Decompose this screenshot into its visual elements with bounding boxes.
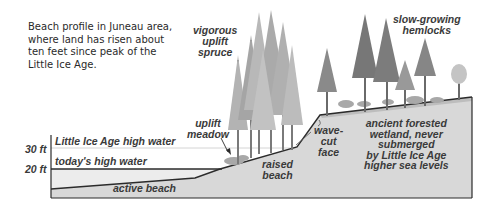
label-slow-growing-hemlocks: slow-growing hemlocks <box>393 14 461 36</box>
label-line: beach <box>262 170 293 181</box>
label-raised-beach: raised beach <box>262 159 293 181</box>
label-active-beach: active beach <box>113 183 176 194</box>
axis-tick-20ft: 20 ft <box>25 164 47 175</box>
label-line: ancient forested <box>364 118 449 129</box>
label-little-ice-age-high-water: Little Ice Age high water <box>55 136 175 147</box>
label-uplift-meadow: uplift meadow <box>187 118 229 140</box>
caption-line-1: Beach profile in Juneau area, <box>28 21 178 34</box>
label-wave-cut-face: wave- cut face <box>314 125 343 158</box>
caption-line-4: Little Ice Age. <box>28 59 178 72</box>
label-line: hemlocks <box>393 25 461 36</box>
label-line: spruce <box>193 47 237 58</box>
diagram-caption: Beach profile in Juneau area, where land… <box>28 21 178 71</box>
label-line: face <box>314 147 343 158</box>
label-line: submerged <box>364 139 449 150</box>
label-line: higher sea levels <box>364 160 449 171</box>
label-todays-high-water: today's high water <box>55 156 147 167</box>
label-line: meadow <box>187 129 229 140</box>
label-ancient-forested-wetland: ancient forested wetland, never submerge… <box>364 118 449 171</box>
vigorous-spruce-trees <box>228 10 303 164</box>
axis-tick-30ft: 30 ft <box>25 144 47 155</box>
caption-line-2: where land has risen about <box>28 34 178 47</box>
caption-line-3: ten feet since peak of the <box>28 46 178 59</box>
label-vigorous-uplift-spruce: vigorous uplift spruce <box>193 25 237 58</box>
